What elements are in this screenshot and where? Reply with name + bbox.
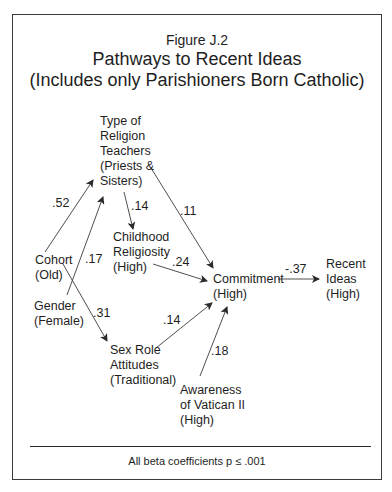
node-sex-role-attitudes: Sex Role Attitudes (Traditional) (110, 343, 176, 388)
coef-teachers-commitment: .11 (180, 204, 196, 218)
node-gender: Gender (Female) (34, 299, 84, 329)
node-commitment: Commitment (High) (213, 272, 284, 302)
coef-childhood-commitment: .24 (172, 255, 189, 269)
coef-gender-teachers: .17 (85, 252, 102, 266)
node-childhood-religiosity: Childhood Religiosity (High) (113, 230, 170, 275)
node-type-of-teachers: Type of Religion Teachers (Priests & Sis… (100, 114, 154, 189)
coef-sexrole-commitment: .14 (163, 313, 180, 327)
coef-teachers-childhood: .14 (131, 199, 148, 213)
coef-cohort-sexrole: .31 (93, 306, 110, 320)
node-recent-ideas: Recent Ideas (High) (326, 257, 366, 302)
coef-awareness-commitment: .18 (211, 344, 228, 358)
arrow-awareness-to-commitment (200, 307, 227, 376)
footnote-divider (30, 446, 371, 447)
arrow-cohort-to-teachers (45, 180, 93, 252)
coef-commitment-recent: -.37 (285, 262, 307, 276)
coef-cohort-teachers: .52 (52, 196, 69, 210)
node-awareness-vatican: Awareness of Vatican II (High) (180, 383, 245, 428)
node-cohort: Cohort (Old) (35, 253, 73, 283)
footnote: All beta coefficients p ≤ .001 (12, 455, 382, 467)
